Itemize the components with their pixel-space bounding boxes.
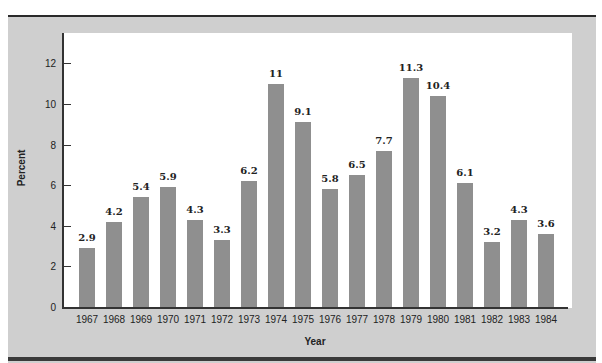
- y-tick-label: 8: [26, 139, 56, 150]
- bar-value-label: 3.3: [202, 224, 242, 235]
- bar-1972: [214, 240, 230, 307]
- bar-value-label: 5.9: [148, 171, 188, 182]
- bar-value-label: 10.4: [418, 80, 458, 91]
- bar-value-label: 4.3: [499, 204, 539, 215]
- x-tick-label: 1969: [126, 314, 156, 325]
- bar-1974: [268, 84, 284, 307]
- bottom-rule: [8, 357, 596, 361]
- y-tick: [64, 145, 71, 146]
- x-tick-label: 1968: [99, 314, 129, 325]
- bar-1975: [295, 122, 311, 307]
- x-tick-label: 1976: [315, 314, 345, 325]
- bar-value-label: 3.6: [526, 218, 566, 229]
- bar-1969: [133, 197, 149, 307]
- bar-1968: [106, 222, 122, 307]
- x-tick-label: 1973: [234, 314, 264, 325]
- x-tick-label: 1974: [261, 314, 291, 325]
- bar-1982: [484, 242, 500, 307]
- bar-1977: [349, 175, 365, 307]
- bar-1983: [511, 220, 527, 307]
- bar-1978: [376, 151, 392, 307]
- y-tick: [64, 266, 71, 267]
- x-tick-label: 1984: [531, 314, 561, 325]
- bar-value-label: 7.7: [364, 135, 404, 146]
- bar-1970: [160, 187, 176, 307]
- y-tick: [64, 63, 71, 64]
- y-tick: [64, 185, 71, 186]
- bar-1971: [187, 220, 203, 307]
- y-tick-label: 0: [26, 302, 56, 313]
- x-tick-label: 1971: [180, 314, 210, 325]
- bar-value-label: 11: [256, 68, 296, 79]
- bar-1980: [430, 96, 446, 307]
- bar-value-label: 6.2: [229, 165, 269, 176]
- y-tick-label: 12: [26, 58, 56, 69]
- x-tick-label: 1983: [504, 314, 534, 325]
- x-tick-label: 1981: [450, 314, 480, 325]
- bar-value-label: 3.2: [472, 226, 512, 237]
- bar-value-label: 11.3: [391, 62, 431, 73]
- y-tick-label: 2: [26, 261, 56, 272]
- x-axis-title: Year: [290, 336, 340, 347]
- bar-1979: [403, 78, 419, 307]
- bar-value-label: 6.5: [337, 159, 377, 170]
- bar-value-label: 6.1: [445, 167, 485, 178]
- y-tick-label: 4: [26, 220, 56, 231]
- y-tick-label: 10: [26, 99, 56, 110]
- x-tick-label: 1977: [342, 314, 372, 325]
- y-tick: [64, 104, 71, 105]
- y-tick: [64, 226, 71, 227]
- x-tick-label: 1979: [396, 314, 426, 325]
- bar-value-label: 4.3: [175, 204, 215, 215]
- bar-1967: [79, 248, 95, 307]
- x-tick-label: 1967: [72, 314, 102, 325]
- bar-value-label: 5.4: [121, 181, 161, 192]
- bar-value-label: 2.9: [67, 232, 107, 243]
- bar-value-label: 4.2: [94, 206, 134, 217]
- x-axis-line: [62, 307, 568, 309]
- bar-1984: [538, 234, 554, 307]
- x-tick-label: 1972: [207, 314, 237, 325]
- bar-value-label: 5.8: [310, 173, 350, 184]
- y-axis-title: Percent: [16, 138, 27, 198]
- bar-1981: [457, 183, 473, 307]
- y-axis-line: [62, 33, 64, 309]
- x-tick-label: 1975: [288, 314, 318, 325]
- x-tick-label: 1978: [369, 314, 399, 325]
- x-tick-label: 1970: [153, 314, 183, 325]
- bar-1973: [241, 181, 257, 307]
- x-tick-label: 1982: [477, 314, 507, 325]
- bar-1976: [322, 189, 338, 307]
- bar-value-label: 9.1: [283, 106, 323, 117]
- x-tick-label: 1980: [423, 314, 453, 325]
- y-tick-label: 6: [26, 180, 56, 191]
